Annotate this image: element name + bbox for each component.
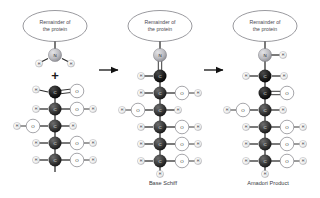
atom-label-c: C <box>53 90 56 95</box>
atom-label-h: H <box>302 142 305 146</box>
atom-label-c: C <box>263 74 266 79</box>
atom-label-o: O <box>241 108 245 113</box>
atom-label-h: H <box>226 108 229 112</box>
atom-label-o: O <box>75 158 79 163</box>
diagram-canvas: Remainder of the protein N H H + <box>0 0 320 198</box>
atom-label-h: H <box>282 108 285 112</box>
atom-label-o: O <box>285 91 289 96</box>
atom-label-o: O <box>136 108 140 113</box>
atom-label-h: H <box>38 62 41 66</box>
plus-operator: + <box>51 68 59 83</box>
atom-label-h: H <box>264 172 267 176</box>
atom-label-h: H <box>92 158 95 162</box>
atom-label-o: O <box>180 125 184 130</box>
atom-label-c: C <box>263 108 266 113</box>
atom-label-h: H <box>140 159 143 163</box>
atom-label-h: H <box>283 74 286 78</box>
atom-label-o: O <box>31 124 35 129</box>
atom-label-h: H <box>140 125 143 129</box>
atom-label-o: O <box>180 142 184 147</box>
atom-label-h: H <box>197 159 200 163</box>
caption-amadori-product: Amadori Product <box>247 180 289 186</box>
atom-label-h: H <box>245 159 248 163</box>
atom-label-h: H <box>245 125 248 129</box>
atom-label-h: H <box>140 91 143 95</box>
atom-label-o: O <box>285 159 289 164</box>
atom-label-c: C <box>158 91 161 96</box>
atom-label-c: C <box>158 125 161 130</box>
protein-label-line1: Remainder of <box>144 19 176 25</box>
atom-label-h: H <box>121 108 124 112</box>
atom-label-c: C <box>263 91 266 96</box>
caption-schiff-base: Base Schiff <box>149 180 178 186</box>
atom-label-c: C <box>53 107 56 112</box>
atom-label-h: H <box>35 158 38 162</box>
atom-label-h: H <box>245 74 248 78</box>
protein-label-line1: Remainder of <box>249 19 281 25</box>
atom-label-h: H <box>35 141 38 145</box>
atom-label-n: N <box>53 53 56 58</box>
atom-label-o: O <box>75 107 79 112</box>
protein-label-line2: the protein <box>43 26 68 32</box>
atom-label-c: C <box>263 125 266 130</box>
atom-label-h: H <box>245 142 248 146</box>
atom-label-o: O <box>180 91 184 96</box>
atom-label-o: O <box>75 89 79 94</box>
atom-label-o: O <box>285 142 289 147</box>
atom-label-h: H <box>70 62 73 66</box>
atom-label-c: C <box>158 74 161 79</box>
atom-label-h: H <box>140 142 143 146</box>
atom-label-n: N <box>158 53 161 58</box>
atom-label-n: N <box>263 53 266 58</box>
atom-label-h: H <box>159 172 162 176</box>
atom-label-c: C <box>158 108 161 113</box>
atom-label-h: H <box>197 91 200 95</box>
atom-label-c: C <box>263 142 266 147</box>
atom-label-c: C <box>53 158 56 163</box>
atom-label-o: O <box>180 159 184 164</box>
atom-label-h: H <box>197 142 200 146</box>
atom-label-c: C <box>158 142 161 147</box>
atom-label-h: H <box>92 141 95 145</box>
atom-label-h: H <box>177 108 180 112</box>
atom-label-h: H <box>35 107 38 111</box>
atom-label-c: C <box>158 159 161 164</box>
protein-label-line2: the protein <box>148 26 173 32</box>
atom-label-h: H <box>92 107 95 111</box>
atom-label-h: H <box>35 88 38 92</box>
protein-label-line2: the protein <box>253 26 278 32</box>
atom-label-h: H <box>302 159 305 163</box>
atom-label-c: C <box>53 124 56 129</box>
atom-label-h: H <box>282 53 285 57</box>
atom-label-h: H <box>16 124 19 128</box>
atom-label-c: C <box>53 141 56 146</box>
atom-label-h: H <box>140 74 143 78</box>
maillard-reaction-diagram: Remainder of the protein N H H + <box>0 0 320 198</box>
atom-label-h: H <box>197 125 200 129</box>
atom-label-o: O <box>75 141 79 146</box>
atom-label-h: H <box>302 125 305 129</box>
atom-label-c: C <box>263 159 266 164</box>
atom-label-h: H <box>72 124 75 128</box>
protein-label-line1: Remainder of <box>39 19 71 25</box>
atom-label-o: O <box>285 125 289 130</box>
